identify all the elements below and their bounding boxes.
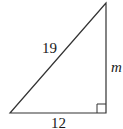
triangle-outline	[10, 3, 106, 113]
vertical-leg-label: m	[111, 60, 122, 75]
base-label: 12	[51, 116, 66, 129]
right-angle-marker	[97, 104, 106, 113]
hypotenuse-label: 19	[42, 41, 57, 56]
right-triangle	[0, 0, 123, 129]
